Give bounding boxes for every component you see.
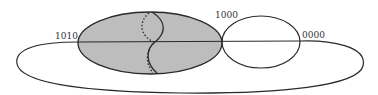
diagram-canvas: 1010 1000 0000 <box>0 0 378 95</box>
small-ellipse <box>222 16 300 68</box>
label-1010: 1010 <box>55 31 78 41</box>
label-0000: 0000 <box>302 30 325 40</box>
label-1000: 1000 <box>215 10 238 20</box>
